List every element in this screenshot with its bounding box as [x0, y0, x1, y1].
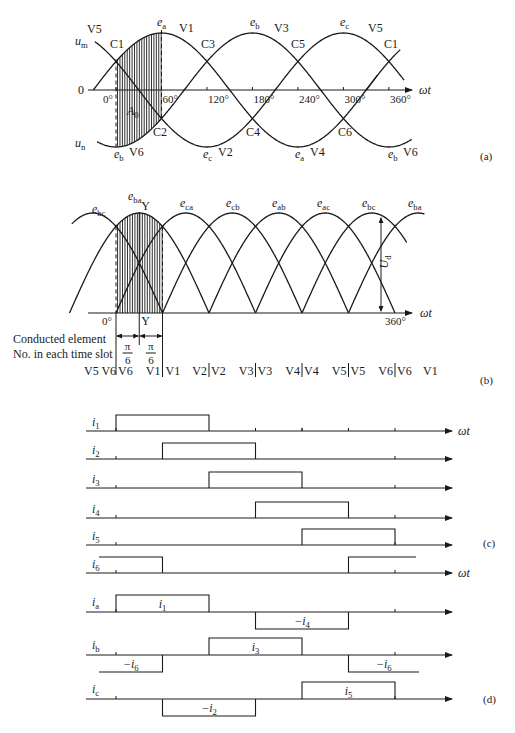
conduction-label: V3 — [239, 364, 254, 378]
device-label: V6 — [403, 145, 418, 159]
crossing-label: C6 — [338, 125, 352, 139]
v1-label: V1 — [179, 21, 194, 35]
crossing-label: C5 — [291, 37, 305, 51]
origin-label: 0 — [78, 83, 84, 97]
u-n-label: un — [75, 136, 86, 152]
current-pulse — [302, 529, 395, 545]
current-label: i3 — [92, 472, 100, 488]
current-pulse — [349, 557, 417, 573]
phase-label: ea — [295, 147, 304, 163]
block-label: −i4 — [294, 614, 310, 630]
line-voltage-label: ebc — [362, 196, 376, 212]
block-label: −i6 — [376, 657, 392, 673]
device-label: V6 — [129, 145, 144, 159]
phase-label: ec — [203, 147, 212, 163]
conduction-label: V1 — [146, 364, 161, 378]
crossing-label: C1 — [384, 37, 398, 51]
conduction-label: V5 — [351, 364, 366, 378]
current-label: i6 — [92, 557, 100, 573]
current-pulse — [163, 443, 256, 459]
y-marker-bottom: Y — [141, 314, 150, 328]
panel-label-c: (c) — [483, 537, 496, 550]
device-label: V2 — [218, 145, 233, 159]
y-marker-top: Y — [141, 199, 150, 213]
panel-d-phase-currents: iai1−i4ibi3−i6−i6ici5−i2(d) — [86, 595, 496, 717]
line-voltage-label: eca — [180, 196, 193, 212]
tick-360: 360° — [385, 315, 406, 327]
phase-current-label: ic — [92, 682, 99, 698]
line-voltage-label: ebc — [92, 202, 106, 218]
crossing-label: C4 — [246, 125, 260, 139]
current-pulse — [99, 557, 163, 573]
axis-label: ωt — [420, 306, 432, 320]
ud-label: Ud — [377, 255, 393, 269]
caption-line1: Conducted element — [13, 332, 107, 346]
conduction-label: V6 — [378, 364, 393, 378]
tick-0: 0° — [102, 315, 112, 327]
conduction-label: V4 — [304, 364, 319, 378]
device-label: V4 — [310, 145, 325, 159]
phase-current-label: ib — [92, 638, 100, 654]
conduction-label: V4 — [285, 364, 300, 378]
caption-line2: No. in each time slot — [13, 347, 113, 361]
line-voltage-label: eab — [272, 196, 285, 212]
panel-label-b: (b) — [480, 374, 493, 387]
axis-label: ωt — [458, 424, 470, 438]
panel-a-phase-voltages: 0°60°120°180°240°300°360°0ωtumunA0V5eaV1… — [75, 15, 493, 163]
conduction-label: V2 — [211, 364, 226, 378]
conduction-label: V2 — [192, 364, 207, 378]
phase-label: eb — [388, 147, 398, 163]
conduction-label: V6 — [118, 364, 133, 378]
conduction-label: V5 — [332, 364, 347, 378]
rectifier-waveform-figure: 0°60°120°180°240°300°360°0ωtumunA0V5eaV1… — [0, 0, 515, 733]
conduction-label: V5 V6 — [84, 364, 116, 378]
block-label: −i2 — [201, 701, 217, 717]
v3-label: V3 — [274, 21, 289, 35]
pi-numerator: π — [148, 340, 154, 352]
block-label: i5 — [345, 684, 353, 700]
panel-c-device-currents: i1i2i3i4i5i6ωtωt(c) — [86, 415, 496, 580]
v5-label: V5 — [368, 21, 383, 35]
phase-label: eb — [114, 147, 124, 163]
panel-b-line-voltages: ωtYY0°360°Udebcebaecaecbeabeacebcebaπ6π6… — [13, 189, 493, 387]
tick-label: 120° — [208, 93, 229, 105]
tick-label: 300° — [344, 93, 365, 105]
block-label: i1 — [159, 597, 167, 613]
current-label: i1 — [92, 415, 100, 431]
u-m-label: um — [75, 34, 88, 50]
axis-label: ωt — [458, 566, 470, 580]
panel-label-d: (d) — [483, 693, 496, 706]
current-label: i2 — [92, 443, 100, 459]
block-label: −i6 — [123, 657, 139, 673]
conduction-label: V3 — [258, 364, 273, 378]
block-label: i3 — [252, 640, 260, 656]
pi-numerator: π — [125, 340, 131, 352]
crossing-label: C2 — [153, 125, 167, 139]
e-a-label: ea — [157, 15, 166, 31]
line-voltage-label: eba — [408, 196, 422, 212]
line-voltage-label: eba — [128, 189, 142, 205]
conduction-label: V1 — [166, 364, 181, 378]
tick-label: 60° — [162, 93, 177, 105]
current-pulse — [256, 502, 349, 518]
line-voltage-label: eac — [317, 196, 330, 212]
crossing-label: C1 — [110, 37, 124, 51]
conduction-label: V1 — [423, 364, 438, 378]
tick-label: 240° — [299, 93, 320, 105]
current-pulse — [116, 415, 209, 431]
axis-label: ωt — [419, 83, 431, 97]
current-label: i4 — [92, 502, 100, 518]
e-c-label: ec — [340, 15, 349, 31]
panel-label-a: (a) — [480, 150, 493, 163]
tick-label: 180° — [253, 93, 274, 105]
line-voltage-label: ecb — [226, 196, 239, 212]
phase-current-label: ia — [92, 595, 99, 611]
current-label: i5 — [92, 529, 100, 545]
tick-label: 360° — [390, 93, 411, 105]
conduction-label: V6 — [397, 364, 412, 378]
v5-label: V5 — [87, 22, 102, 36]
current-pulse — [209, 472, 302, 488]
e-b-label: eb — [250, 15, 260, 31]
crossing-label: C3 — [201, 37, 215, 51]
tick-label: 0° — [103, 93, 113, 105]
